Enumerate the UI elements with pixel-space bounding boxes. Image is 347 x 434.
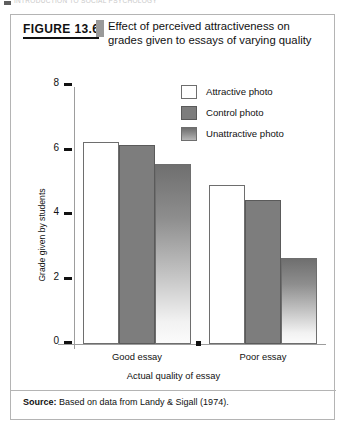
bar-good-attractive bbox=[83, 142, 119, 344]
bar-poor-attractive bbox=[209, 185, 245, 344]
chart-plot-area: 0 2 4 6 8 Grade given by students Good e… bbox=[11, 15, 336, 395]
legend-item-control: Control photo bbox=[181, 102, 326, 123]
x-axis-title: Actual quality of essay bbox=[11, 370, 336, 381]
running-header: INTRODUCTION TO SOCIAL PSYCHOLOGY bbox=[0, 0, 347, 9]
bar-group-good-essay bbox=[83, 87, 191, 344]
source-note-text: Based on data from Landy & Sigall (1974)… bbox=[59, 397, 229, 407]
bar-good-unattractive bbox=[155, 164, 191, 345]
bar-poor-control bbox=[245, 200, 281, 344]
legend-swatch-attractive bbox=[181, 85, 197, 99]
legend-item-attractive: Attractive photo bbox=[181, 81, 326, 102]
running-header-mark bbox=[4, 1, 11, 5]
legend-item-unattractive: Unattractive photo bbox=[181, 123, 326, 144]
bar-poor-unattractive bbox=[281, 258, 317, 344]
legend-swatch-control bbox=[181, 106, 197, 120]
legend-label-attractive: Attractive photo bbox=[206, 86, 273, 97]
source-note-prefix: Source: bbox=[23, 397, 57, 407]
x-axis-line bbox=[58, 344, 326, 345]
category-label-good-essay: Good essay bbox=[83, 351, 191, 362]
chart-legend: Attractive photo Control photo Unattract… bbox=[181, 81, 326, 144]
running-header-text: INTRODUCTION TO SOCIAL PSYCHOLOGY bbox=[14, 0, 157, 4]
legend-label-control: Control photo bbox=[206, 107, 264, 118]
figure-panel: FIGURE 13.6 Effect of perceived attracti… bbox=[10, 14, 335, 420]
legend-swatch-unattractive bbox=[181, 127, 197, 141]
source-note: Source: Based on data from Landy & Sigal… bbox=[23, 397, 229, 407]
category-label-poor-essay: Poor essay bbox=[209, 351, 317, 362]
source-divider bbox=[11, 390, 336, 391]
bar-good-control bbox=[119, 145, 155, 344]
legend-label-unattractive: Unattractive photo bbox=[206, 128, 284, 139]
y-tick-8 bbox=[64, 83, 72, 86]
